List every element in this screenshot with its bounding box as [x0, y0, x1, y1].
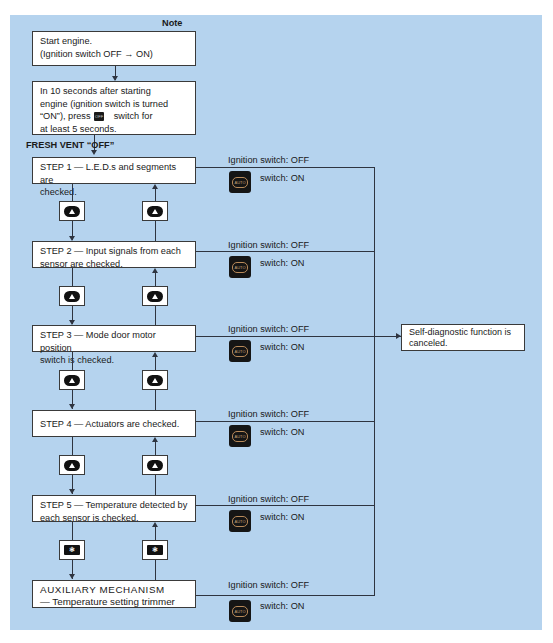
auto-switch-icon: AUTO: [229, 425, 251, 447]
step-5-line-2: each sensor is checked.: [40, 512, 188, 525]
step-1-exit-line: [196, 167, 374, 168]
step-4-auto-label: switch: ON: [260, 427, 304, 437]
auxiliary-auto-label: switch: ON: [260, 601, 304, 611]
step-2-line-1: STEP 2 — Input signals from each: [40, 245, 188, 258]
exit-bus-line: [374, 167, 375, 596]
press-line-3-pre: “ON”), press: [40, 111, 91, 121]
press-line-2: engine (ignition switch is turned: [40, 98, 188, 111]
auxiliary-box: AUXILIARY MECHANISM — Temperature settin…: [32, 580, 196, 608]
auto-switch-icon: AUTO: [229, 600, 251, 622]
arrow-up-icon: [152, 184, 158, 189]
cancel-line-2: canceled.: [409, 338, 517, 349]
up-triangle-icon: [69, 209, 75, 214]
auxiliary-line-1: AUXILIARY MECHANISM: [40, 584, 188, 596]
arrow-down-icon: [91, 150, 97, 155]
up-button-back: [142, 370, 168, 390]
arrow-down-icon: [69, 489, 75, 494]
press-off-box: In 10 seconds after starting engine (ign…: [32, 81, 196, 135]
up-triangle-icon: [152, 463, 158, 468]
auto-switch-icon: AUTO: [229, 256, 251, 278]
press-line-3: “ON”), press OFF switch for: [40, 110, 188, 123]
step-4-box: STEP 4 — Actuators are checked.: [32, 410, 196, 437]
step-5-box: STEP 5 — Temperature detected by each se…: [32, 495, 196, 522]
press-line-4: at least 5 seconds.: [40, 123, 188, 136]
step-2-line-2: sensor are checked.: [40, 258, 188, 271]
fresh-vent-label: FRESH VENT “OFF”: [26, 140, 114, 150]
cancel-line-1: Self-diagnostic function is: [409, 327, 517, 338]
step-5-auto-label: switch: ON: [260, 512, 304, 522]
step-3-ignition-label: Ignition switch: OFF: [228, 324, 309, 334]
step-2-exit-line: [196, 251, 374, 252]
arrow-down-icon: [69, 574, 75, 579]
step-3-line-2: switch is checked.: [40, 354, 188, 367]
step-4-ignition-label: Ignition switch: OFF: [228, 409, 309, 419]
step-2-ignition-label: Ignition switch: OFF: [228, 240, 309, 250]
auxiliary-ignition-label: Ignition switch: OFF: [228, 580, 309, 590]
step-1-box: STEP 1 — L.E.D.s and segments are checke…: [32, 157, 196, 184]
up-button-forward: [59, 286, 85, 306]
auxiliary-exit-line: [196, 595, 374, 596]
fan-button-forward: ❃: [59, 540, 85, 560]
up-button-back: [142, 286, 168, 306]
up-triangle-icon: [69, 378, 75, 383]
arrow-down-icon: [69, 404, 75, 409]
step-1-line-1: STEP 1 — L.E.D.s and segments are: [40, 161, 188, 186]
start-engine-box: Start engine. (Ignition switch OFF → ON): [32, 31, 196, 66]
up-triangle-icon: [69, 294, 75, 299]
off-switch-icon: OFF: [94, 112, 104, 121]
step-5-exit-line: [196, 505, 374, 506]
step-1-ignition-label: Ignition switch: OFF: [228, 155, 309, 165]
auto-switch-icon: AUTO: [229, 340, 251, 362]
fan-button-back: ❃: [142, 540, 168, 560]
arrow-up-icon: [152, 437, 158, 442]
fan-icon: ❃: [147, 545, 163, 555]
auxiliary-line-2: — Temperature setting trimmer: [40, 596, 188, 608]
arrow-up-icon: [152, 268, 158, 273]
start-line-2: (Ignition switch OFF → ON): [40, 48, 188, 61]
auto-switch-icon: AUTO: [229, 510, 251, 532]
up-triangle-icon: [69, 463, 75, 468]
step-2-box: STEP 2 — Input signals from each sensor …: [32, 241, 196, 268]
step-3-exit-line: [196, 336, 374, 337]
auto-switch-icon: AUTO: [229, 171, 251, 193]
up-button-forward: [59, 201, 85, 221]
start-line-1: Start engine.: [40, 35, 188, 48]
up-button-forward: [59, 455, 85, 475]
step-5-line-1: STEP 5 — Temperature detected by: [40, 499, 188, 512]
step-2-auto-label: switch: ON: [260, 258, 304, 268]
press-line-1: In 10 seconds after starting: [40, 85, 188, 98]
up-button-back: [142, 201, 168, 221]
note-label: Note: [162, 18, 182, 28]
step-4-exit-line: [196, 421, 374, 422]
canceled-box: Self-diagnostic function is canceled.: [401, 324, 525, 351]
step-4-line-1: STEP 4 — Actuators are checked.: [40, 418, 188, 431]
up-triangle-icon: [152, 294, 158, 299]
up-triangle-icon: [152, 209, 158, 214]
step-3-box: STEP 3 — Mode door motor position switch…: [32, 325, 196, 352]
step-5-ignition-label: Ignition switch: OFF: [228, 494, 309, 504]
step-1-auto-label: switch: ON: [260, 173, 304, 183]
up-button-back: [142, 455, 168, 475]
step-1-line-2: checked.: [40, 186, 188, 199]
step-3-line-1: STEP 3 — Mode door motor position: [40, 329, 188, 354]
step-3-auto-label: switch: ON: [260, 342, 304, 352]
press-line-3-post: switch for: [114, 111, 153, 121]
up-triangle-icon: [152, 378, 158, 383]
fan-icon: ❃: [64, 545, 80, 555]
arrow-up-icon: [152, 522, 158, 527]
up-button-forward: [59, 370, 85, 390]
arrow-up-icon: [152, 352, 158, 357]
